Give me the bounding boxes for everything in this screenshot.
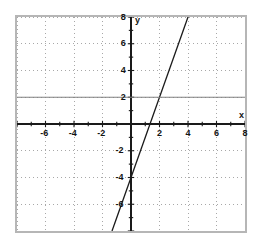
- x-axis-label: x: [239, 111, 244, 120]
- x-tick-label-4: 4: [185, 129, 190, 138]
- y-tick-label-neg2: -2: [116, 146, 124, 155]
- coordinate-plane-svg: [17, 17, 245, 231]
- x-tick-label-neg2: -2: [97, 129, 105, 138]
- y-axis-label: y: [135, 16, 140, 25]
- chart-figure: -6-4-224688642-2-4-6 x y: [0, 0, 262, 247]
- y-tick-label-2: 2: [121, 93, 126, 102]
- y-tick-label-neg6: -6: [116, 200, 124, 209]
- x-tick-label-6: 6: [214, 129, 219, 138]
- plot-area: [17, 17, 245, 231]
- x-tick-label-8: 8: [242, 129, 247, 138]
- y-tick-label-6: 6: [121, 39, 126, 48]
- y-tick-label-8: 8: [121, 13, 126, 22]
- y-tick-label-4: 4: [121, 66, 126, 75]
- x-tick-label-2: 2: [157, 129, 162, 138]
- x-tick-label-neg6: -6: [40, 129, 48, 138]
- x-tick-label-neg4: -4: [69, 129, 77, 138]
- axes-group: [17, 17, 245, 231]
- y-tick-label-neg4: -4: [116, 173, 124, 182]
